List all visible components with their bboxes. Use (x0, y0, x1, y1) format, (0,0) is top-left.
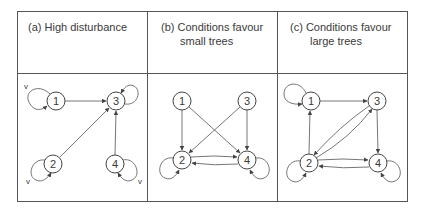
edge-c-2-to-3 (316, 109, 372, 158)
edge-a-2-to-3 (60, 108, 109, 157)
panel-b-title-line-1: (b) Conditions favour (161, 21, 263, 33)
panel-a-title: (a) High disturbance (28, 21, 127, 33)
edge-b-2-to-4 (191, 156, 237, 157)
node-a-4: 4 (106, 155, 124, 173)
edge-c-2-to-1 (309, 111, 310, 154)
edge-a-4-to-3 (115, 111, 116, 155)
panel-c-title-line-1: (c) Conditions favour (290, 21, 392, 33)
panel-a-graph: v v v 1 2 3 4 (24, 82, 142, 186)
svg-text:2: 2 (179, 154, 185, 166)
panel-c-title-line-2: large trees (310, 35, 362, 47)
node-b-1: 1 (173, 92, 191, 110)
svg-text:1: 1 (308, 95, 314, 107)
v-mark-a-2: v (26, 177, 30, 186)
edge-c-3-to-2 (314, 106, 369, 155)
panel-b-graph: 1 2 3 4 (160, 92, 270, 179)
self-loop-a-1 (28, 89, 50, 110)
svg-text:2: 2 (306, 157, 312, 169)
svg-text:3: 3 (244, 95, 250, 107)
edge-c-4-to-2 (319, 166, 369, 168)
panel-c-header: (c) Conditions favour large trees (290, 21, 392, 47)
svg-text:1: 1 (179, 95, 185, 107)
transition-diagram-figure: (a) High disturbance (b) Conditions favo… (0, 0, 423, 212)
v-mark-a-1: v (24, 82, 28, 91)
svg-text:3: 3 (374, 95, 380, 107)
node-a-1: 1 (47, 92, 65, 110)
node-b-4: 4 (238, 151, 256, 169)
svg-text:4: 4 (112, 158, 118, 170)
node-b-2: 2 (173, 151, 191, 169)
v-mark-a-4: v (138, 177, 142, 186)
svg-text:3: 3 (113, 95, 119, 107)
panel-b-title-line-2: small trees (180, 35, 234, 47)
node-c-1: 1 (302, 92, 320, 110)
node-b-3: 3 (238, 92, 256, 110)
panel-c-graph: 1 2 3 4 (284, 84, 400, 182)
panel-b-header: (b) Conditions favour small trees (161, 21, 263, 47)
node-c-4: 4 (369, 154, 387, 172)
node-a-2: 2 (44, 155, 62, 173)
node-a-3: 3 (107, 92, 125, 110)
node-c-2: 2 (300, 154, 318, 172)
svg-text:2: 2 (50, 158, 56, 170)
panel-a-header: (a) High disturbance (28, 21, 127, 33)
edge-b-4-to-2 (192, 163, 238, 165)
edge-c-2-to-4 (318, 159, 368, 160)
svg-text:4: 4 (244, 154, 250, 166)
edge-c-3-to-4 (377, 110, 378, 153)
svg-text:1: 1 (53, 95, 59, 107)
svg-text:4: 4 (375, 157, 381, 169)
node-c-3: 3 (368, 92, 386, 110)
